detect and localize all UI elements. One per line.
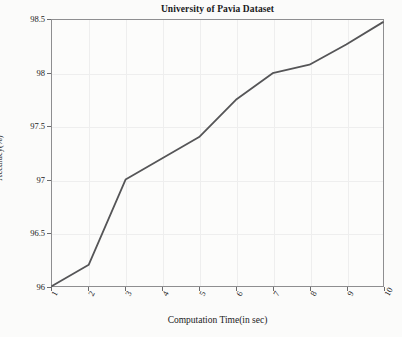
series-line-accuracy — [52, 20, 383, 286]
y-tick-mark — [47, 19, 51, 20]
x-tick-mark — [310, 287, 311, 291]
y-tick-label: 97.5 — [11, 121, 45, 131]
y-tick-mark — [47, 233, 51, 234]
y-tick-label: 96.5 — [11, 228, 45, 238]
x-tick-mark — [347, 287, 348, 291]
y-tick-label: 98.5 — [11, 14, 45, 24]
x-axis-label: Computation Time(in sec) — [51, 315, 384, 325]
y-tick-mark — [47, 73, 51, 74]
x-tick-mark — [199, 287, 200, 291]
x-tick-mark — [384, 287, 385, 291]
x-tick-mark — [236, 287, 237, 291]
x-tick-mark — [125, 287, 126, 291]
chart-figure: University of Pavia Dataset Accuracy(%) … — [0, 0, 402, 337]
x-tick-mark — [273, 287, 274, 291]
y-tick-label: 96 — [11, 282, 45, 292]
y-tick-label: 97 — [11, 175, 45, 185]
y-tick-mark — [47, 126, 51, 127]
plot-area — [51, 19, 384, 287]
y-tick-label: 98 — [11, 68, 45, 78]
y-axis-label: Accuracy(%) — [0, 135, 4, 180]
x-tick-mark — [162, 287, 163, 291]
chart-title: University of Pavia Dataset — [51, 4, 384, 14]
x-tick-mark — [88, 287, 89, 291]
x-tick-mark — [51, 287, 52, 291]
y-tick-mark — [47, 180, 51, 181]
